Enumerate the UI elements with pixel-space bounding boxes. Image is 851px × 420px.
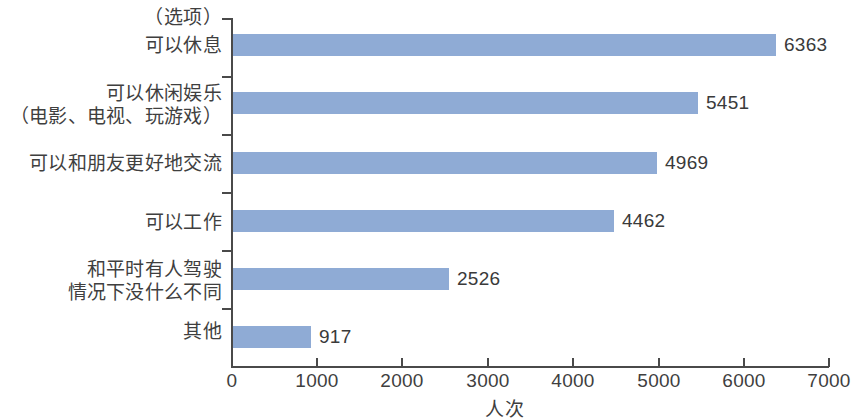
- x-axis-tick-7: [828, 358, 830, 367]
- bar-value-2: 4969: [665, 152, 708, 174]
- x-tick-label-1: 1000: [295, 370, 338, 392]
- bar-value-5: 917: [319, 326, 352, 348]
- x-axis-tick-6: [743, 358, 745, 367]
- category-axis-header: （选项）: [0, 2, 222, 29]
- category-label-1-line-2: （电影、电视、玩游戏）: [0, 105, 222, 128]
- x-axis-tick-5: [658, 358, 660, 367]
- bar-2: [233, 152, 657, 174]
- x-axis-tick-0: [231, 358, 233, 367]
- y-axis-tick-5: [222, 308, 231, 310]
- bar-value-3: 4462: [622, 210, 665, 232]
- x-axis-tick-1: [316, 358, 318, 367]
- category-label-5-line-1: 其他: [183, 321, 222, 342]
- category-label-0-line-1: 可以休息: [145, 35, 222, 56]
- category-label-3-line-1: 可以工作: [145, 212, 222, 233]
- x-tick-label-5: 5000: [637, 370, 680, 392]
- y-axis-tick-3: [222, 192, 231, 194]
- x-axis-tick-2: [401, 358, 403, 367]
- x-tick-label-0: 0: [227, 370, 238, 392]
- bar-5: [233, 326, 311, 348]
- bar-value-1: 5451: [706, 92, 749, 114]
- bar-value-0: 6363: [784, 34, 827, 56]
- x-axis-tick-3: [487, 358, 489, 367]
- category-label-4-line-1: 和平时有人驾驶: [87, 259, 222, 280]
- x-axis-title: 人次: [485, 394, 525, 420]
- category-label-1-line-1: 可以休闲娱乐: [106, 83, 222, 104]
- x-axis-line: [231, 366, 829, 368]
- category-label-4: 和平时有人驾驶 情况下没什么不同: [0, 258, 222, 304]
- y-axis-tick-top: [222, 18, 231, 20]
- bar-4: [233, 268, 449, 290]
- category-label-2-line-1: 可以和朋友更好地交流: [29, 153, 222, 174]
- bar-1: [233, 92, 698, 114]
- category-label-3: 可以工作: [0, 211, 222, 234]
- x-tick-label-4: 4000: [551, 370, 594, 392]
- bar-value-4: 2526: [457, 268, 500, 290]
- x-axis-tick-4: [572, 358, 574, 367]
- category-label-4-line-2: 情况下没什么不同: [0, 281, 222, 304]
- category-label-1: 可以休闲娱乐 （电影、电视、玩游戏）: [0, 82, 222, 128]
- bar-0: [233, 34, 776, 56]
- category-label-0: 可以休息: [0, 34, 222, 57]
- bar-3: [233, 210, 614, 232]
- x-tick-label-6: 6000: [722, 370, 765, 392]
- y-axis-tick-4: [222, 250, 231, 252]
- y-axis-tick-2: [222, 134, 231, 136]
- y-axis-line: [231, 18, 233, 367]
- y-axis-tick-1: [222, 76, 231, 78]
- x-tick-label-2: 2000: [380, 370, 423, 392]
- x-tick-label-3: 3000: [466, 370, 509, 392]
- x-tick-label-7: 7000: [807, 370, 850, 392]
- category-label-5: 其他: [0, 320, 222, 343]
- category-label-2: 可以和朋友更好地交流: [0, 152, 222, 175]
